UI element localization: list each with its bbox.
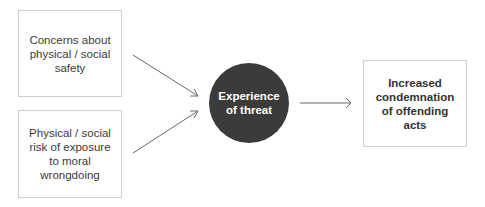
arrow-risk-to-threat-icon — [133, 111, 198, 153]
arrow-threat-to-condemnation-icon — [300, 98, 351, 108]
arrows-layer — [0, 0, 485, 207]
arrow-safety-to-threat-icon — [133, 55, 198, 96]
